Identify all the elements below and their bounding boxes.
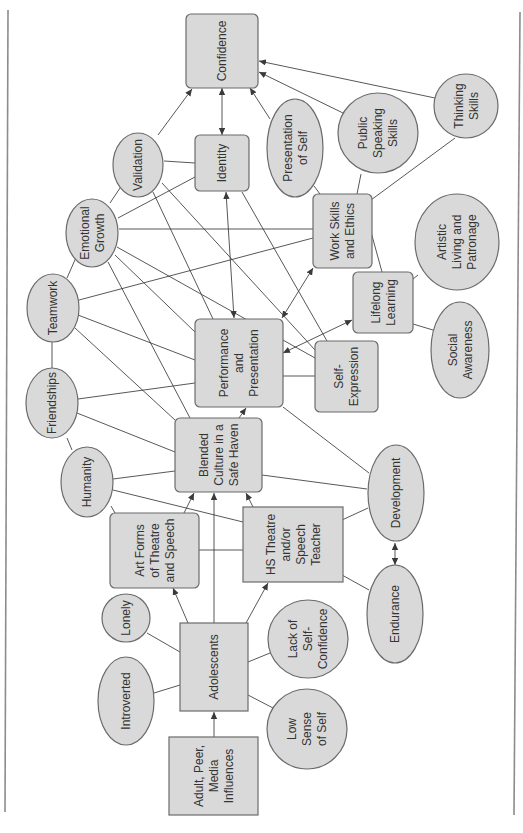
node-label-line: Adult, Peer, (192, 745, 206, 807)
node-adolescents: Adolescents (180, 623, 248, 711)
node-label-line: of Self (315, 711, 329, 746)
edge-lack-of-self-confidence-to-adolescents (248, 653, 270, 662)
node-label: Work Skillsand Ethics (328, 201, 357, 260)
edge-humanity-to-art-forms (111, 506, 115, 513)
edge-blended-culture-to-development (262, 475, 367, 489)
node-lack-of-self-confidence: Lack ofSelf-Confidence (268, 600, 348, 678)
node-label: Friendships (45, 372, 59, 434)
node-label: EmotionalGrowth (78, 206, 107, 259)
node-label-line: Confidence (215, 20, 229, 81)
node-label: BlendedCulture in aSafe Haven (197, 424, 241, 487)
edge-performance-and-presentation-to-development (283, 407, 369, 473)
node-teamwork: Teamwork (27, 274, 79, 342)
node-label-line: Thinking (452, 83, 466, 128)
edge-social-awareness-to-lifelong-learning (413, 324, 433, 330)
node-label-line: Friendships (45, 372, 59, 434)
node-label-line: Expression (347, 347, 361, 406)
node-label-line: Artistic (435, 224, 449, 260)
node-label-line: Introverted (119, 672, 133, 729)
node-label-line: Emotional (78, 206, 92, 259)
edge-humanity-to-blended-culture (113, 471, 175, 479)
node-presentation-of-self: Presentationof Self (267, 99, 323, 197)
node-label: Humanity (80, 457, 94, 508)
page-border-left (5, 10, 8, 812)
node-label-line: and Speech (163, 518, 177, 582)
node-label-line: Self- (332, 364, 346, 389)
edge-blended-culture-to-performance-and-presentation (239, 408, 246, 418)
edge-low-sense-of-self-to-adolescents (248, 695, 273, 708)
node-label-line: Influences (222, 749, 236, 804)
page-border-right (514, 12, 520, 815)
node-label-line: and/or (279, 527, 293, 561)
node-label-line: Art Forms (133, 524, 147, 577)
edge-artistic-living-and-patronage-to-lifelong-learning (413, 275, 418, 279)
edge-teamwork-to-blended-culture (75, 328, 175, 420)
node-friendships: Friendships (26, 368, 78, 438)
node-label: Validation (131, 139, 145, 191)
node-label: Lonely (119, 600, 133, 635)
edge-validation-to-identity (164, 161, 195, 163)
node-label-line: HS Theatre (264, 514, 278, 575)
node-label-line: Presentation (247, 329, 261, 396)
node-label: Endurance (388, 585, 402, 643)
node-label-line: Blended (197, 433, 211, 477)
node-lonely: Lonely (102, 594, 150, 642)
node-label-line: Speech (294, 524, 308, 565)
node-social-awareness: SocialAwareness (431, 302, 489, 398)
node-label-line: Learning (384, 279, 398, 326)
node-label: Teamwork (46, 280, 60, 336)
node-label: LifelongLearning (369, 279, 398, 326)
node-label-line: Humanity (80, 457, 94, 508)
node-label-line: Work Skills (328, 201, 342, 260)
node-label: Art Formsof Theatreand Speech (133, 518, 177, 582)
node-public-speaking-skills: PublicSpeakingSkills (338, 93, 418, 173)
node-label-line: Confidence (316, 608, 330, 669)
edge-public-speaking-skills-to-work-skills-and-ethics (357, 174, 361, 194)
edge-hs-theatre-teacher-to-development (342, 508, 368, 520)
node-label-line: Performance (217, 328, 231, 397)
edge-emotional-growth-to-performance-and-presentation (115, 255, 195, 332)
edge-friendships-to-performance-and-presentation (78, 383, 195, 399)
node-humanity: Humanity (61, 447, 113, 517)
node-performance-and-presentation: PerformanceandPresentation (195, 319, 283, 407)
node-label-line: Identity (215, 144, 229, 183)
node-label-line: Living and (450, 215, 464, 270)
node-label-line: Skills (386, 119, 400, 147)
node-art-forms: Art Formsof Theatreand Speech (110, 513, 199, 588)
node-label-line: of Self (296, 130, 310, 165)
node-label-line: Lack of (286, 619, 300, 658)
node-label-line: Social (446, 334, 460, 367)
node-label-line: and (232, 353, 246, 373)
node-introverted: Introverted (98, 657, 154, 745)
edge-presentation-of-self-to-confidence (250, 88, 270, 119)
node-artistic-living-and-patronage: ArtisticLiving andPatronage (415, 194, 499, 290)
node-label: Introverted (119, 672, 133, 729)
node-label-line: Endurance (388, 585, 402, 643)
node-self-expression: Self-Expression (315, 341, 378, 412)
node-label-line: Low (285, 718, 299, 740)
node-label-line: of Theatre (148, 523, 162, 578)
edge-performance-and-presentation-to-work-skills-and-ethics (282, 268, 313, 318)
edge-adolescents-to-art-forms (173, 588, 188, 623)
node-label-line: and Ethics (343, 203, 357, 259)
edge-hs-theatre-teacher-to-blended-culture (246, 493, 253, 507)
edge-friendships-to-humanity (67, 438, 72, 450)
edge-hs-theatre-teacher-to-endurance (342, 575, 369, 590)
node-lifelong-learning: LifelongLearning (353, 272, 413, 333)
node-label-line: Speaking (371, 108, 385, 158)
node-development: Development (368, 445, 424, 541)
node-label-line: Presentation (281, 114, 295, 181)
node-label-line: Awareness (461, 320, 475, 379)
node-hs-theatre-teacher: HS Theatreand/orSpeechTeacher (243, 507, 343, 582)
node-label: Identity (215, 144, 229, 183)
edge-emotional-growth-to-blended-culture (108, 262, 190, 418)
node-label: Adolescents (207, 634, 221, 699)
concept-map-diagram: ConfidenceIdentityValidationEmotionalGro… (0, 0, 523, 833)
edge-validation-to-confidence (158, 89, 192, 135)
node-label-line: Self- (301, 627, 315, 652)
node-endurance: Endurance (367, 565, 423, 663)
node-work-skills-and-ethics: Work Skillsand Ethics (313, 194, 372, 268)
node-emotional-growth: EmotionalGrowth (66, 199, 118, 267)
edge-thinking-skills-to-confidence (259, 61, 435, 98)
edge-lonely-to-adolescents (147, 633, 180, 652)
